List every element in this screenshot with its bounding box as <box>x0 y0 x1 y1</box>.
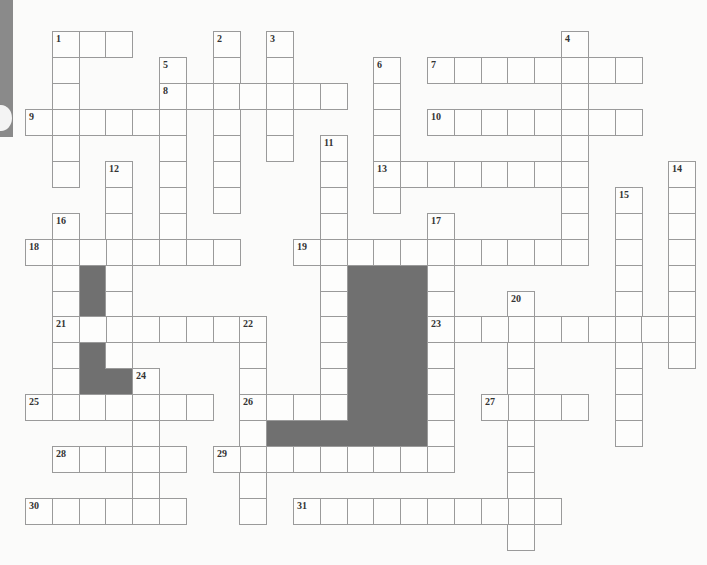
crossword-cell[interactable] <box>615 239 643 266</box>
crossword-cell[interactable] <box>507 498 535 525</box>
crossword-cell[interactable] <box>132 394 160 421</box>
crossword-cell[interactable] <box>427 368 455 395</box>
crossword-cell[interactable] <box>239 498 267 525</box>
crossword-cell[interactable] <box>79 498 107 525</box>
crossword-cell[interactable] <box>159 239 187 266</box>
crossword-cell[interactable] <box>320 368 348 395</box>
crossword-cell[interactable] <box>534 109 562 136</box>
crossword-cell[interactable] <box>239 446 267 473</box>
crossword-cell[interactable]: 17 <box>427 213 455 240</box>
crossword-cell[interactable] <box>561 187 589 214</box>
crossword-cell[interactable] <box>454 161 482 188</box>
crossword-cell[interactable] <box>239 472 267 499</box>
crossword-cell[interactable] <box>79 316 107 343</box>
crossword-cell[interactable] <box>186 83 214 110</box>
crossword-cell[interactable] <box>159 394 187 421</box>
crossword-cell[interactable] <box>615 109 643 136</box>
crossword-cell[interactable]: 11 <box>320 135 348 162</box>
crossword-cell[interactable] <box>213 57 241 84</box>
crossword-cell[interactable] <box>186 394 214 421</box>
crossword-cell[interactable] <box>186 239 214 266</box>
crossword-cell[interactable] <box>213 161 241 188</box>
crossword-cell[interactable] <box>588 109 616 136</box>
crossword-cell[interactable] <box>400 161 428 188</box>
crossword-cell[interactable] <box>481 316 509 343</box>
crossword-cell[interactable] <box>320 316 348 343</box>
crossword-cell[interactable] <box>373 109 401 136</box>
crossword-cell[interactable] <box>347 498 375 525</box>
crossword-cell[interactable] <box>507 57 535 84</box>
crossword-cell[interactable]: 2 <box>213 31 241 58</box>
crossword-cell[interactable] <box>213 83 241 110</box>
crossword-cell[interactable] <box>373 83 401 110</box>
crossword-cell[interactable]: 24 <box>132 368 160 395</box>
crossword-cell[interactable]: 18 <box>25 239 53 266</box>
crossword-cell[interactable] <box>615 316 643 343</box>
crossword-cell[interactable] <box>105 394 133 421</box>
crossword-cell[interactable] <box>105 291 133 318</box>
crossword-cell[interactable] <box>615 368 643 395</box>
crossword-cell[interactable]: 7 <box>427 57 455 84</box>
crossword-cell[interactable] <box>615 57 643 84</box>
crossword-cell[interactable] <box>266 57 294 84</box>
crossword-cell[interactable] <box>507 109 535 136</box>
crossword-cell[interactable] <box>132 316 160 343</box>
crossword-cell[interactable] <box>320 265 348 292</box>
crossword-cell[interactable] <box>454 498 482 525</box>
crossword-cell[interactable] <box>534 57 562 84</box>
crossword-cell[interactable] <box>400 498 428 525</box>
crossword-cell[interactable] <box>320 161 348 188</box>
crossword-cell[interactable] <box>561 83 589 110</box>
crossword-cell[interactable]: 31 <box>293 498 321 525</box>
crossword-cell[interactable] <box>239 368 267 395</box>
crossword-cell[interactable] <box>79 109 107 136</box>
crossword-cell[interactable] <box>534 394 562 421</box>
crossword-cell[interactable]: 26 <box>239 394 267 421</box>
crossword-cell[interactable]: 23 <box>427 316 455 343</box>
crossword-cell[interactable] <box>132 239 160 266</box>
crossword-cell[interactable] <box>105 498 133 525</box>
crossword-cell[interactable] <box>159 446 187 473</box>
crossword-cell[interactable] <box>615 265 643 292</box>
crossword-cell[interactable] <box>159 109 187 136</box>
crossword-cell[interactable] <box>481 239 509 266</box>
crossword-cell[interactable] <box>427 239 455 266</box>
crossword-cell[interactable] <box>52 239 80 266</box>
crossword-cell[interactable] <box>52 135 80 162</box>
crossword-cell[interactable]: 30 <box>25 498 53 525</box>
crossword-cell[interactable] <box>427 342 455 369</box>
crossword-cell[interactable] <box>52 265 80 292</box>
crossword-cell[interactable] <box>615 342 643 369</box>
crossword-cell[interactable] <box>668 187 696 214</box>
crossword-cell[interactable] <box>507 446 535 473</box>
crossword-cell[interactable] <box>132 420 160 447</box>
crossword-cell[interactable]: 5 <box>159 57 187 84</box>
crossword-cell[interactable] <box>159 316 187 343</box>
crossword-cell[interactable]: 6 <box>373 57 401 84</box>
crossword-cell[interactable] <box>52 83 80 110</box>
crossword-cell[interactable] <box>534 239 562 266</box>
crossword-cell[interactable] <box>668 265 696 292</box>
crossword-cell[interactable] <box>615 394 643 421</box>
crossword-cell[interactable] <box>481 161 509 188</box>
crossword-cell[interactable]: 21 <box>52 316 80 343</box>
crossword-cell[interactable] <box>454 57 482 84</box>
crossword-cell[interactable] <box>534 498 562 525</box>
crossword-cell[interactable] <box>320 239 348 266</box>
crossword-cell[interactable] <box>534 161 562 188</box>
crossword-cell[interactable] <box>105 31 133 58</box>
crossword-cell[interactable]: 1 <box>52 31 80 58</box>
crossword-cell[interactable] <box>159 161 187 188</box>
crossword-cell[interactable] <box>266 135 294 162</box>
crossword-cell[interactable] <box>320 213 348 240</box>
crossword-cell[interactable] <box>105 213 133 240</box>
crossword-cell[interactable] <box>79 239 107 266</box>
crossword-cell[interactable] <box>615 420 643 447</box>
crossword-cell[interactable] <box>266 109 294 136</box>
crossword-cell[interactable] <box>561 213 589 240</box>
crossword-cell[interactable]: 12 <box>105 161 133 188</box>
crossword-cell[interactable] <box>373 187 401 214</box>
crossword-cell[interactable] <box>561 135 589 162</box>
crossword-cell[interactable] <box>293 446 321 473</box>
crossword-cell[interactable] <box>320 83 348 110</box>
